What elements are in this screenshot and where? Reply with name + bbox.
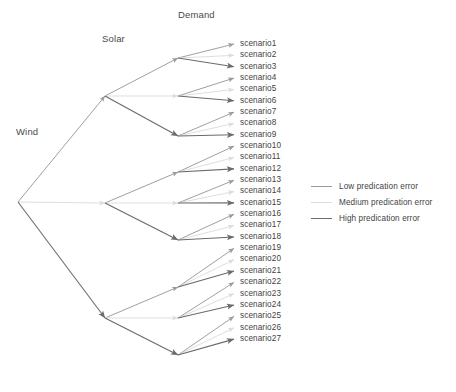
scenario-label-7: scenario7 (240, 107, 276, 116)
scenario-label-2: scenario2 (240, 50, 276, 59)
stage-label-demand: Demand (178, 9, 215, 20)
legend-line-swatch-low (311, 186, 332, 187)
edge-solar-to-demand-7 (105, 287, 178, 318)
edges-solar-to-demand (105, 58, 178, 355)
stage-label-wind: Wind (16, 126, 38, 137)
edge-demand-to-scenario25 (178, 316, 234, 355)
edge-wind-to-solar-2 (18, 202, 105, 203)
scenario-label-25: scenario25 (240, 311, 281, 320)
edge-demand-to-scenario5 (178, 89, 234, 96)
scenario-label-18: scenario18 (240, 232, 281, 241)
edge-solar-to-demand-3 (105, 96, 178, 136)
edge-demand-to-scenario3 (178, 58, 234, 67)
edge-demand-to-scenario24 (178, 305, 234, 318)
edge-demand-to-scenario10 (178, 146, 234, 172)
edge-demand-to-scenario12 (178, 169, 234, 172)
edges-demand-to-scenario (178, 44, 234, 355)
scenario-label-14: scenario14 (240, 186, 281, 195)
scenario-label-5: scenario5 (240, 84, 276, 93)
legend-item-low: Low predication error (311, 178, 451, 194)
scenario-tree-figure: Demand Solar Wind scenario1scenario2scen… (0, 0, 456, 392)
scenario-label-24: scenario24 (240, 300, 281, 309)
legend-label-low: Low predication error (339, 182, 418, 191)
scenario-label-3: scenario3 (240, 62, 276, 71)
scenario-label-15: scenario15 (240, 198, 281, 207)
edge-solar-to-demand-6 (105, 203, 178, 240)
scenario-label-12: scenario12 (240, 164, 281, 173)
edge-demand-to-scenario7 (178, 112, 234, 136)
edge-demand-to-scenario8 (178, 123, 234, 136)
edge-solar-to-demand-9 (105, 318, 178, 355)
legend-line-swatch-medium (311, 202, 332, 203)
scenario-label-22: scenario22 (240, 277, 281, 286)
legend-label-medium: Medium predication error (339, 198, 432, 207)
scenario-label-10: scenario10 (240, 141, 281, 150)
scenario-label-20: scenario20 (240, 254, 281, 263)
edge-solar-to-demand-1 (105, 58, 178, 96)
edge-demand-to-scenario19 (178, 248, 234, 287)
edge-solar-to-demand-4 (105, 172, 178, 203)
scenario-label-6: scenario6 (240, 96, 276, 105)
edge-demand-to-scenario4 (178, 78, 234, 96)
scenario-label-17: scenario17 (240, 220, 281, 229)
edge-wind-to-solar-3 (18, 202, 105, 318)
edge-demand-to-scenario9 (178, 135, 234, 136)
edge-wind-to-solar-1 (18, 96, 105, 202)
edge-demand-to-scenario23 (178, 294, 234, 318)
scenario-label-16: scenario16 (240, 209, 281, 218)
stage-label-solar: Solar (102, 33, 125, 44)
legend-item-high: High predication error (311, 210, 451, 226)
legend-item-medium: Medium predication error (311, 194, 451, 210)
scenario-label-19: scenario19 (240, 243, 281, 252)
legend-line-swatch-high (311, 218, 332, 219)
scenario-label-26: scenario26 (240, 323, 281, 332)
scenario-label-23: scenario23 (240, 289, 281, 298)
edge-demand-to-scenario13 (178, 180, 234, 203)
scenario-label-27: scenario27 (240, 334, 281, 343)
scenario-label-8: scenario8 (240, 118, 276, 127)
scenario-label-13: scenario13 (240, 175, 281, 184)
scenario-label-11: scenario11 (240, 152, 280, 161)
edge-demand-to-scenario6 (178, 96, 234, 101)
scenario-label-21: scenario21 (240, 266, 281, 275)
legend: Low predication errorMedium predication … (311, 178, 451, 226)
edge-demand-to-scenario22 (178, 282, 234, 318)
legend-label-high: High predication error (339, 214, 420, 223)
scenario-label-1: scenario1 (240, 39, 276, 48)
scenario-label-9: scenario9 (240, 130, 276, 139)
scenario-label-4: scenario4 (240, 73, 276, 82)
edge-demand-to-scenario16 (178, 214, 234, 240)
edge-demand-to-scenario14 (178, 192, 234, 203)
